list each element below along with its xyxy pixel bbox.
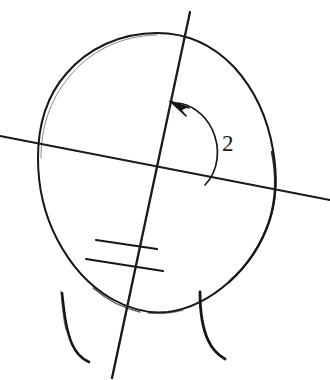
left-neck-line — [61, 291, 89, 362]
oblique-vertical-axis-line — [112, 12, 190, 378]
head-ellipse-outline — [38, 33, 276, 313]
angle-arc-with-arrow — [177, 103, 217, 185]
diagram-canvas: 2 — [0, 0, 330, 380]
diagram-svg — [0, 0, 330, 380]
oblique-horizontal-axis-line — [0, 136, 330, 200]
angle-label-2: 2 — [222, 132, 234, 155]
lower-tick-mark — [86, 259, 163, 271]
upper-tick-mark — [96, 240, 157, 249]
right-neck-line — [200, 292, 225, 359]
